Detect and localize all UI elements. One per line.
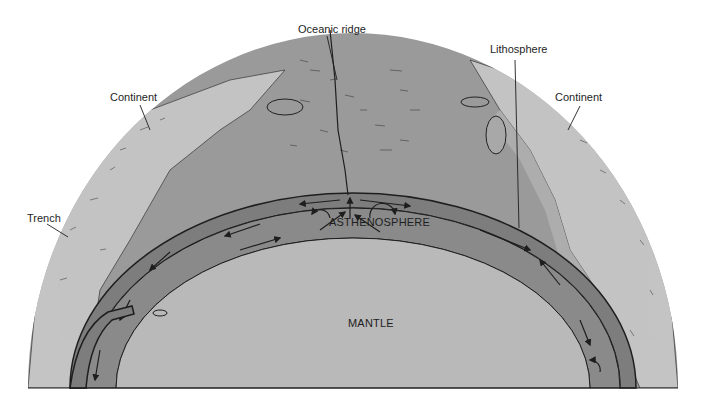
plate-tectonics-diagram (0, 0, 709, 409)
label-trench: Trench (27, 213, 61, 224)
label-asthenosphere: ASTHENOSPHERE (329, 217, 430, 228)
label-continent-left: Continent (110, 92, 157, 103)
label-mantle: MANTLE (348, 318, 394, 329)
label-continent-right: Continent (555, 92, 602, 103)
label-lithosphere: Lithosphere (490, 44, 548, 55)
label-oceanic-ridge: Oceanic ridge (298, 24, 366, 35)
